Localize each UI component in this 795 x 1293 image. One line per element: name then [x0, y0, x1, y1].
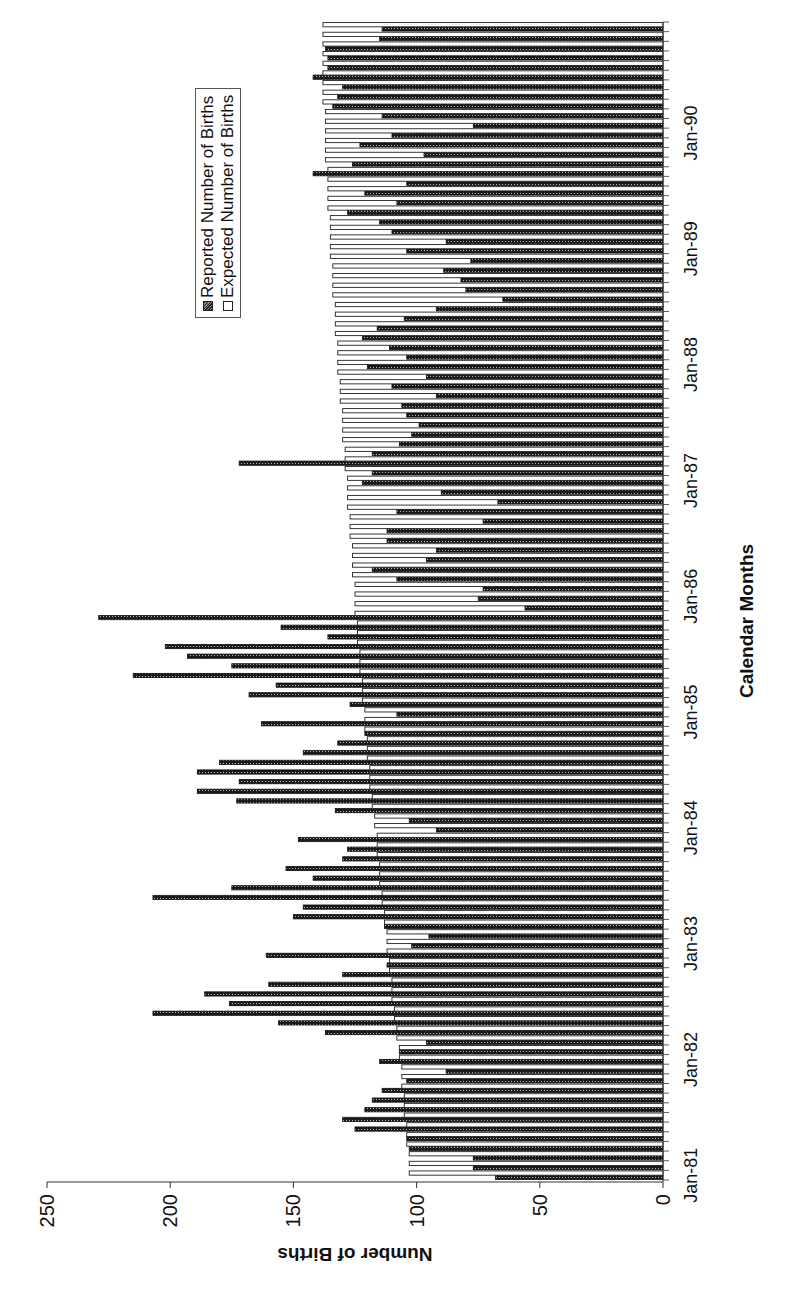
bar-expected: [323, 23, 663, 27]
bar-reported: [426, 558, 663, 562]
bar-expected: [355, 592, 663, 596]
bar-reported: [473, 1166, 663, 1170]
bar-reported: [99, 615, 663, 619]
bar-expected: [350, 534, 663, 538]
bar-expected: [377, 833, 663, 837]
bar-expected: [380, 881, 663, 885]
bar-expected: [325, 138, 663, 142]
bar-expected: [328, 206, 663, 210]
bar-expected: [323, 71, 663, 75]
bar-expected: [345, 466, 663, 470]
bar-reported: [387, 538, 663, 542]
bar-reported: [397, 509, 663, 513]
bar-reported: [436, 394, 663, 398]
x-tick-label: Jan-83: [681, 916, 701, 971]
bar-reported: [365, 731, 663, 735]
bar-reported: [261, 722, 663, 726]
bar-expected: [387, 930, 663, 934]
bars-group: [99, 23, 663, 1180]
bar-expected: [404, 1094, 663, 1098]
bar-reported: [281, 625, 663, 629]
legend: Reported Number of Births Expected Numbe…: [195, 88, 241, 318]
bar-reported: [402, 403, 663, 407]
bar-expected: [338, 341, 663, 345]
bar-reported: [426, 374, 663, 378]
bar-expected: [333, 283, 663, 287]
bar-reported: [325, 46, 663, 50]
bar-reported: [362, 480, 663, 484]
x-tick-label: Jan-89: [681, 221, 701, 276]
bar-expected: [362, 688, 663, 692]
bar-reported: [165, 644, 663, 648]
bar-expected: [392, 997, 663, 1001]
bar-expected: [330, 235, 663, 239]
bar-expected: [325, 129, 663, 133]
bar-reported: [328, 65, 663, 69]
bar-reported: [325, 1030, 663, 1034]
bar-expected: [340, 380, 663, 384]
y-tick-label: 0: [652, 1194, 674, 1205]
bar-expected: [323, 52, 663, 56]
bar-expected: [360, 669, 663, 673]
bar-expected: [357, 631, 663, 635]
bar-expected: [402, 1065, 663, 1069]
bar-expected: [392, 988, 663, 992]
bar-reported: [380, 1059, 663, 1063]
bar-reported: [328, 635, 663, 639]
bar-expected: [328, 187, 663, 191]
bar-reported: [525, 606, 663, 610]
bar-reported: [303, 751, 663, 755]
bar-expected: [382, 901, 663, 905]
bar-reported: [483, 587, 663, 591]
bar-expected: [385, 910, 663, 914]
bar-expected: [353, 573, 663, 577]
bar-expected: [335, 331, 663, 335]
legend-label-expected: Expected Number of Births: [218, 95, 238, 298]
bar-reported: [350, 702, 663, 706]
bar-reported: [239, 780, 663, 784]
bar-reported: [343, 857, 663, 861]
bar-expected: [382, 891, 663, 895]
bar-expected: [407, 1142, 663, 1146]
bar-expected: [333, 273, 663, 277]
bar-reported: [205, 992, 663, 996]
bar-expected: [348, 495, 663, 499]
y-axis-title: Number of Births: [277, 1244, 432, 1265]
bar-expected: [385, 920, 663, 924]
bar-expected: [340, 389, 663, 393]
bar-expected: [355, 602, 663, 606]
y-tick-label: 150: [282, 1194, 304, 1227]
bar-reported: [407, 249, 663, 253]
bar-reported: [382, 114, 663, 118]
bar-reported: [483, 519, 663, 523]
bar-reported: [392, 229, 663, 233]
bar-expected: [372, 804, 663, 808]
bar-reported: [419, 422, 663, 426]
bar-reported: [232, 664, 663, 668]
bar-expected: [340, 399, 663, 403]
bar-reported: [197, 789, 663, 793]
bar-reported: [328, 56, 663, 60]
bar-reported: [407, 1079, 663, 1083]
legend-item-reported: Reported Number of Births: [198, 95, 218, 311]
bar-expected: [330, 216, 663, 220]
bar-reported: [495, 1175, 663, 1179]
bar-reported: [362, 336, 663, 340]
bar-expected: [389, 959, 663, 963]
bar-expected: [345, 447, 663, 451]
bar-reported: [219, 760, 663, 764]
bar-expected: [323, 61, 663, 65]
bar-expected: [330, 225, 663, 229]
bar-reported: [478, 596, 663, 600]
bar-expected: [335, 302, 663, 306]
bar-reported: [399, 1050, 663, 1054]
y-tick-label: 100: [406, 1194, 428, 1227]
legend-item-expected: Expected Number of Births: [218, 95, 238, 311]
bar-reported: [441, 490, 663, 494]
bar-reported: [503, 297, 663, 301]
bar-reported: [313, 172, 663, 176]
bar-reported: [436, 548, 663, 552]
bar-reported: [197, 770, 663, 774]
bar-reported: [426, 1040, 663, 1044]
bar-expected: [380, 872, 663, 876]
